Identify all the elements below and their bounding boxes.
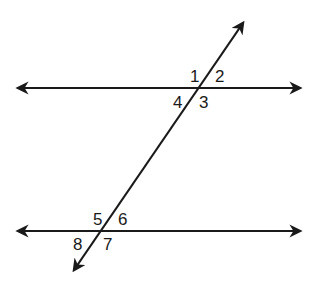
transversal-line (74, 23, 243, 270)
angle-label-7: 7 (103, 235, 112, 254)
angle-label-3: 3 (199, 93, 208, 112)
angle-label-1: 1 (190, 67, 199, 86)
angle-label-8: 8 (73, 235, 82, 254)
angle-label-6: 6 (118, 210, 127, 229)
angle-label-2: 2 (215, 67, 224, 86)
angle-label-4: 4 (173, 93, 182, 112)
parallel-lines-diagram: 1 2 3 4 5 6 7 8 (0, 0, 327, 281)
angle-label-5: 5 (93, 210, 102, 229)
